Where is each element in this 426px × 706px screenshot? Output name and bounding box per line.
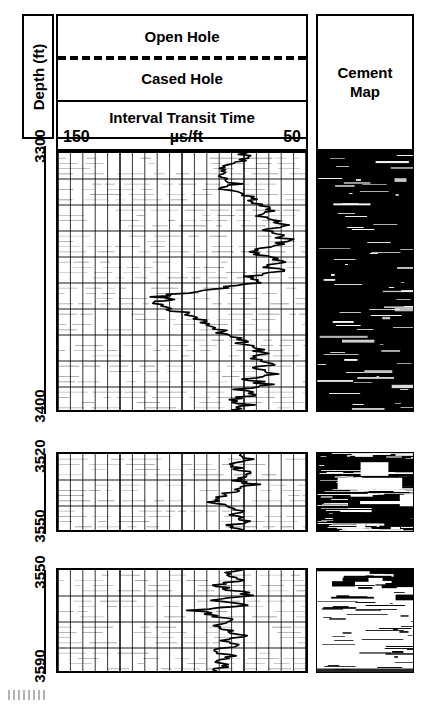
cement-map-panel-3 xyxy=(316,568,414,673)
depth-axis-header: Depth (ft) xyxy=(22,14,54,139)
log-panel-1 xyxy=(56,151,308,412)
depth-tick-3300: 3300 xyxy=(22,138,56,154)
transit-time-curve-panel-3 xyxy=(58,570,306,671)
scale-min-label: 150 xyxy=(63,128,90,146)
cement-map-title-line1: Cement xyxy=(337,64,392,83)
scale-max-label: 50 xyxy=(283,128,301,146)
log-panel-2 xyxy=(56,452,308,532)
page-edge-artifact xyxy=(8,690,48,700)
depth-tick-3590: 3590 xyxy=(22,658,56,674)
scale-row: 150 µs/ft 50 xyxy=(56,125,308,151)
cement-map-title-line2: Map xyxy=(350,83,380,102)
transit-time-curve-panel-2 xyxy=(58,454,306,530)
log-panel-3 xyxy=(56,568,308,673)
depth-axis-label: Depth (ft) xyxy=(30,43,47,110)
cement-map-image-3 xyxy=(317,569,413,672)
cement-map-header: Cement Map xyxy=(316,14,414,151)
depth-tick-3550-b: 3550 xyxy=(22,564,56,580)
transit-time-curve-panel-1 xyxy=(58,153,306,410)
log-header-box: Open Hole Cased Hole Interval Transit Ti… xyxy=(56,14,308,139)
cement-map-panel-1 xyxy=(316,151,414,412)
well-log-figure: Depth (ft) 3300 3400 3520 3550 3550 3590… xyxy=(0,0,426,706)
depth-tick-3520: 3520 xyxy=(22,448,56,464)
cement-map-image-2 xyxy=(317,453,413,531)
cased-hole-label: Cased Hole xyxy=(58,58,306,98)
depth-tick-3550-a: 3550 xyxy=(22,518,56,534)
open-hole-label: Open Hole xyxy=(58,16,306,56)
depth-tick-3400: 3400 xyxy=(22,398,56,414)
scale-unit-label: µs/ft xyxy=(90,128,284,146)
cement-map-panel-2 xyxy=(316,452,414,532)
depth-scale-bar-panel-1 xyxy=(44,146,46,414)
cement-map-image-1 xyxy=(317,152,413,411)
